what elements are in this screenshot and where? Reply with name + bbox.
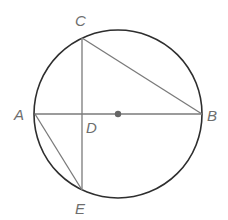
label-c: C bbox=[75, 12, 86, 29]
segment-cb bbox=[82, 38, 202, 114]
label-e: E bbox=[75, 200, 86, 217]
segment-ae bbox=[35, 114, 82, 190]
label-d: D bbox=[86, 119, 97, 136]
circle-diagram: A B C D E bbox=[0, 0, 228, 220]
center-dot bbox=[115, 111, 121, 117]
label-b: B bbox=[207, 107, 217, 124]
label-a: A bbox=[13, 106, 24, 123]
